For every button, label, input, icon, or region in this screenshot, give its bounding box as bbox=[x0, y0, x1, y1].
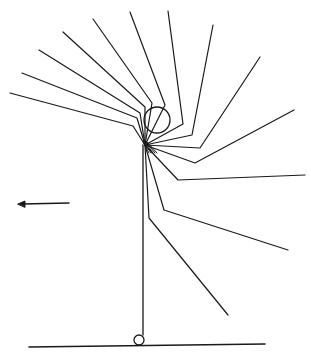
motion-trace-8 bbox=[145, 25, 213, 145]
motion-trace-3 bbox=[39, 50, 145, 145]
motion-trace-7 bbox=[145, 11, 183, 145]
diagram-svg bbox=[0, 0, 311, 357]
ground-line bbox=[29, 344, 265, 347]
motion-diagram bbox=[0, 0, 311, 357]
motion-trace-2 bbox=[22, 73, 145, 145]
motion-trace-11 bbox=[145, 145, 305, 180]
direction-arrow-icon bbox=[18, 201, 69, 207]
motion-trace-9 bbox=[145, 57, 260, 148]
motion-trace-5 bbox=[93, 19, 152, 145]
pivot-circle bbox=[134, 335, 144, 345]
motion-traces bbox=[10, 11, 305, 315]
motion-trace-13 bbox=[145, 145, 228, 315]
motion-trace-4 bbox=[63, 32, 145, 145]
motion-trace-1 bbox=[10, 93, 145, 145]
motion-trace-12 bbox=[145, 145, 288, 250]
